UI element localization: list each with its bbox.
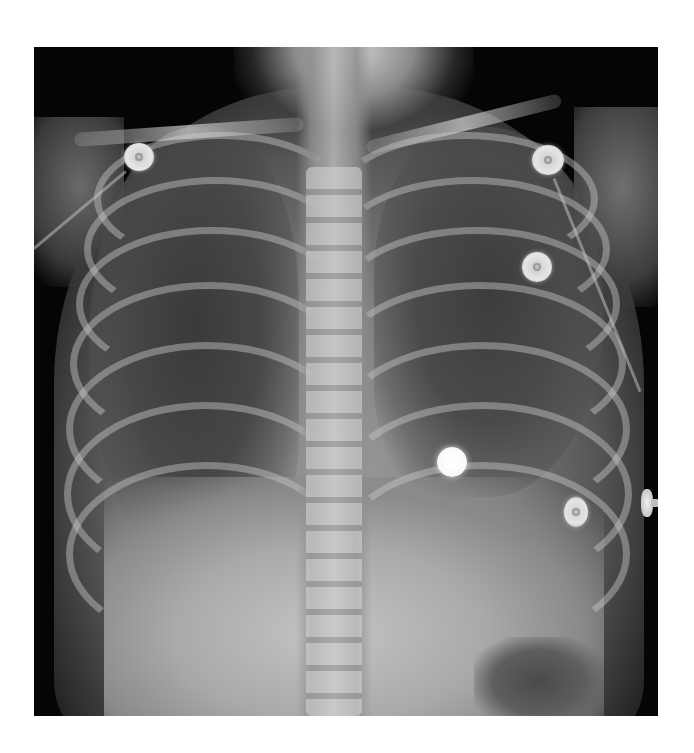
rib bbox=[334, 462, 630, 646]
lead-clip-icon bbox=[641, 489, 653, 517]
vertebral-bodies bbox=[306, 167, 362, 716]
ecg-electrode-icon bbox=[532, 145, 564, 175]
ecg-electrode-icon bbox=[522, 252, 552, 282]
chest-xray-image bbox=[34, 47, 658, 716]
ecg-electrode-icon bbox=[564, 497, 588, 527]
ecg-electrode-icon bbox=[124, 143, 154, 171]
bowel-gas bbox=[474, 637, 604, 716]
radiopaque-marker-icon bbox=[437, 447, 467, 477]
